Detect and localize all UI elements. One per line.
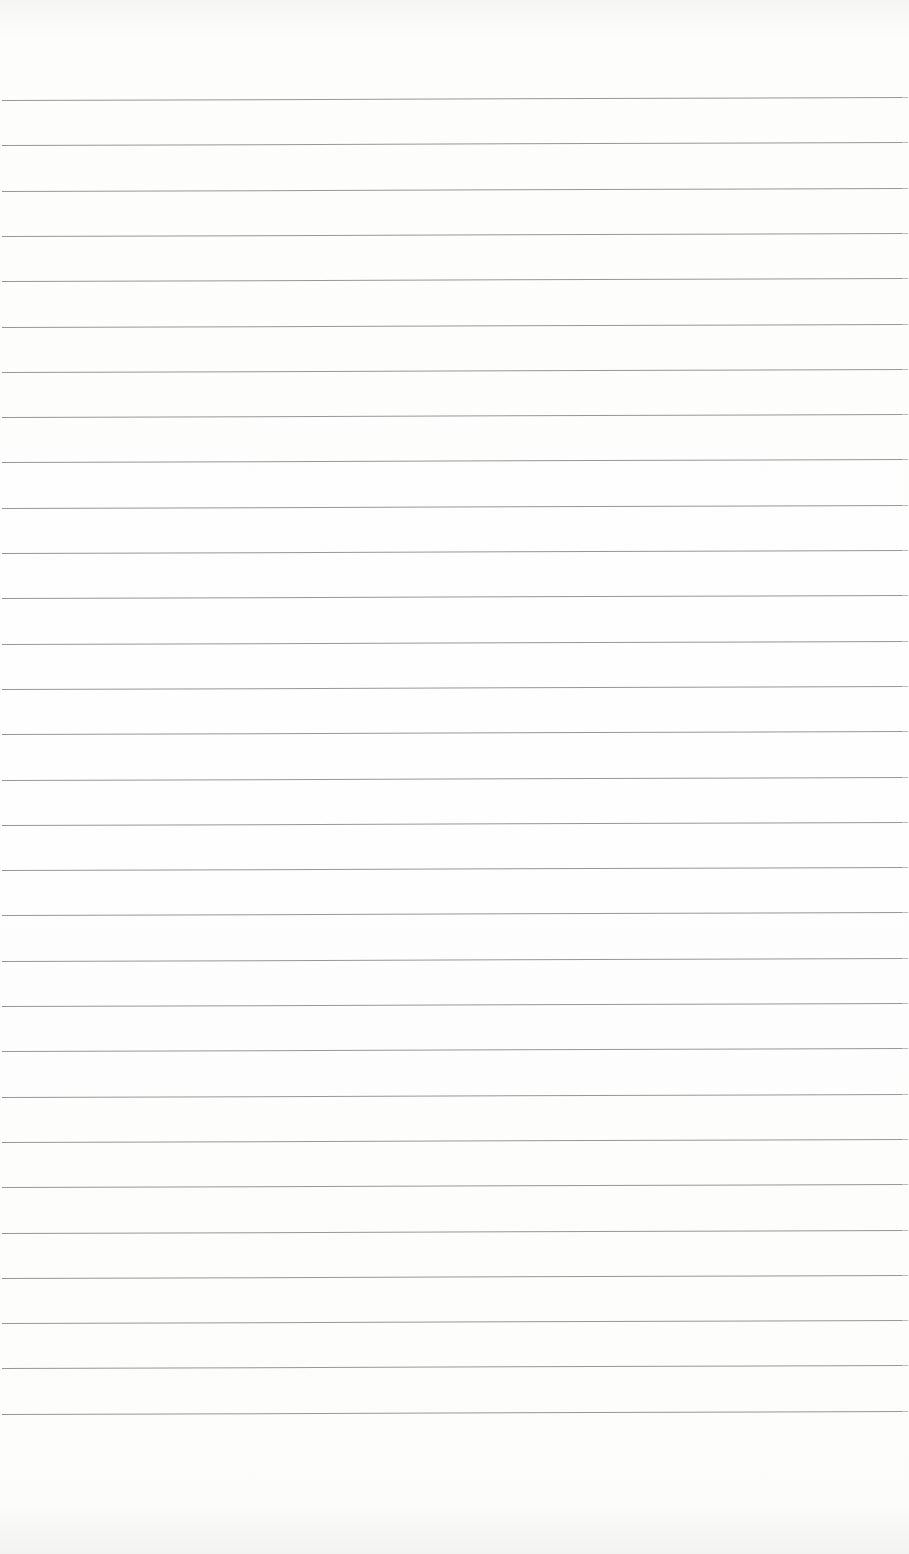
line-edge-mark xyxy=(902,188,908,189)
ruled-line xyxy=(2,142,904,146)
ruled-line xyxy=(2,1094,904,1098)
line-edge-mark xyxy=(902,731,908,732)
line-edge-mark xyxy=(902,1365,908,1366)
line-edge-mark xyxy=(902,414,908,415)
ruled-line xyxy=(2,1184,904,1188)
ruled-line xyxy=(2,414,904,418)
ruled-line xyxy=(2,1275,904,1279)
line-edge-mark xyxy=(902,641,908,642)
line-edge-mark xyxy=(902,595,908,596)
line-edge-mark xyxy=(902,505,908,506)
ruled-line xyxy=(2,686,904,690)
ruled-line xyxy=(2,324,904,328)
line-edge-mark xyxy=(902,142,908,143)
ruled-paper-sheet xyxy=(0,0,909,1554)
line-edge-mark xyxy=(902,867,908,868)
ruled-line xyxy=(2,1230,904,1234)
line-edge-mark xyxy=(902,97,908,98)
ruled-line xyxy=(2,459,904,463)
ruled-line xyxy=(2,97,904,101)
ruled-line xyxy=(2,641,904,645)
line-edge-mark xyxy=(902,278,908,279)
line-edge-mark xyxy=(902,459,908,460)
ruled-line xyxy=(2,278,904,282)
ruled-line xyxy=(2,1003,904,1007)
ruled-line xyxy=(2,233,904,237)
line-edge-mark xyxy=(902,550,908,551)
ruled-line xyxy=(2,731,904,735)
line-edge-mark xyxy=(902,1048,908,1049)
line-edge-mark xyxy=(902,822,908,823)
ruled-line xyxy=(2,777,904,781)
line-edge-mark xyxy=(902,1094,908,1095)
ruled-line xyxy=(2,1048,904,1052)
line-edge-mark xyxy=(902,1320,908,1321)
ruled-line xyxy=(2,1320,904,1324)
ruled-line xyxy=(2,550,904,554)
ruled-line xyxy=(2,595,904,599)
line-edge-mark xyxy=(902,1230,908,1231)
line-edge-mark xyxy=(902,1411,908,1412)
line-edge-mark xyxy=(902,1139,908,1140)
line-edge-mark xyxy=(902,369,908,370)
line-edge-mark xyxy=(902,686,908,687)
line-edge-mark xyxy=(902,1275,908,1276)
ruled-line xyxy=(2,1139,904,1143)
line-edge-mark xyxy=(902,1184,908,1185)
ruled-line xyxy=(2,822,904,826)
line-edge-mark xyxy=(902,777,908,778)
ruled-line xyxy=(2,1411,904,1415)
ruled-line xyxy=(2,188,904,192)
line-edge-mark xyxy=(902,324,908,325)
ruled-line xyxy=(2,369,904,373)
line-edge-mark xyxy=(902,912,908,913)
line-edge-mark xyxy=(902,233,908,234)
ruled-line xyxy=(2,867,904,871)
ruled-line xyxy=(2,958,904,962)
ruled-line xyxy=(2,1365,904,1369)
line-edge-mark xyxy=(902,958,908,959)
ruled-line xyxy=(2,505,904,509)
ruled-line xyxy=(2,912,904,916)
line-edge-mark xyxy=(902,1003,908,1004)
